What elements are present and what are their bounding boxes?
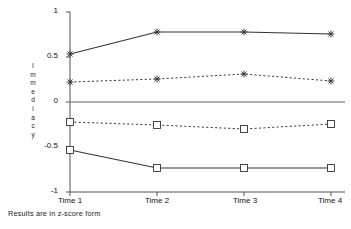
series-dashed-square-lower [67, 119, 335, 133]
series-solid-star-upper [67, 29, 335, 58]
chart-figure: I m m e d i a c y 1 0.5 0 -0.5 -1 Time 1… [0, 0, 351, 229]
chart-caption: Results are in z-score form [8, 209, 101, 218]
series-solid-square-lower [67, 147, 335, 172]
plot-area [0, 0, 351, 229]
series-dashed-star-upper [67, 71, 335, 86]
